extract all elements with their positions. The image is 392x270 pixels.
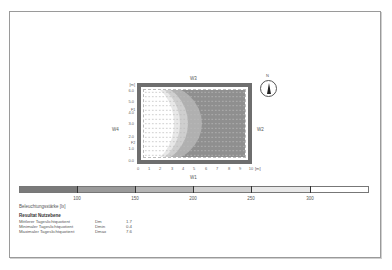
x-tick: 4 [179,166,187,171]
colorbar-label: Beleuchtungsstärke [lx] [19,205,66,210]
y-axis-unit: [m] [123,82,135,87]
x-tick: 6 [202,166,210,171]
x-tick: 8 [225,166,233,171]
result-name: Maximaler Tageslichtquotient [19,229,74,234]
colorbar-segment [311,187,368,192]
result-value: 7.6 [126,229,132,234]
colorbar-segment [78,187,136,192]
y-tick: 5.0 [122,99,134,104]
colorbar-segment [252,187,311,192]
wall-label-top: W3 [190,76,197,81]
x-tick: 7 [213,166,221,171]
room-interior [141,87,248,160]
y-tick: 3.0 [122,121,134,126]
x-tick: 3 [168,166,176,171]
window-label-f2: F2 [131,142,135,146]
x-tick: 10 [247,166,255,171]
x-tick: 2 [156,166,164,171]
colorbar-tick [251,186,252,193]
colorbar-tick-label: 100 [67,196,87,201]
colorbar-tick [193,186,194,193]
x-tick: 9 [236,166,244,171]
daylight-contour-map [143,89,246,158]
y-tick: 2.0 [122,134,134,139]
measurement-grid [144,90,245,157]
colorbar-segment [136,187,194,192]
wall-label-left: W4 [112,127,119,132]
result-symbol: Dmax [95,229,106,234]
wall-label-bottom: W1 [190,175,197,180]
x-tick: 0 [134,166,142,171]
room-plan [137,83,252,164]
x-tick: 1 [145,166,153,171]
wall-label-right: W2 [257,127,264,132]
colorbar-tick [77,186,78,193]
x-tick: 5 [190,166,198,171]
compass-north-label: N [266,74,269,78]
y-tick: 0.0 [122,158,134,163]
colorbar-segment [20,187,78,192]
y-tick: 1.0 [122,146,134,151]
colorbar-segment [194,187,252,192]
north-arrow-icon [260,80,277,97]
x-axis-unit: [m] [255,167,261,171]
window-label-f1: F1 [131,109,135,113]
results-title: Resultat Nutzebene [19,213,61,218]
y-tick: 6.0 [122,88,134,93]
colorbar-tick [310,186,311,193]
colorbar-tick-label: 300 [300,196,320,201]
colorbar-legend [19,186,369,193]
colorbar-tick-label: 250 [241,196,261,201]
colorbar-tick-label: 200 [183,196,203,201]
colorbar-tick [135,186,136,193]
colorbar-tick-label: 150 [125,196,145,201]
